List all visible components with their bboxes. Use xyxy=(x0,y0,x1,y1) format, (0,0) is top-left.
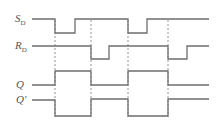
label-q-prime: Q' xyxy=(16,94,26,105)
waveform-qprime xyxy=(32,99,209,116)
waveform-canvas xyxy=(0,0,223,124)
waveform-sd xyxy=(32,19,209,33)
label-q: Q xyxy=(16,79,24,90)
label-sd: SD xyxy=(15,13,26,27)
waveform-q xyxy=(32,71,209,85)
waveform-rd xyxy=(32,46,209,59)
label-rd: RD xyxy=(15,40,27,54)
